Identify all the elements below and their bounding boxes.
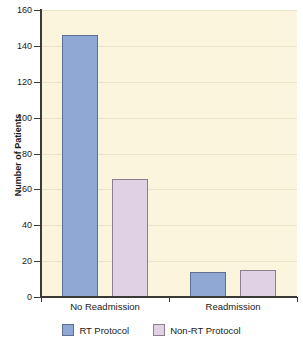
y-tick-label: 40 <box>2 220 32 230</box>
y-tick-label: 20 <box>2 256 32 266</box>
y-tick-label: 60 <box>2 184 32 194</box>
x-axis-separator <box>297 297 298 302</box>
y-tick-mark <box>34 189 40 190</box>
bar-chart: Number of Patients 020406080100120140160… <box>0 0 303 344</box>
y-tick-label: 80 <box>2 149 32 159</box>
chart-legend: RT ProtocolNon-RT Protocol <box>0 324 303 336</box>
legend-label: RT Protocol <box>79 325 129 336</box>
legend-swatch <box>153 324 165 336</box>
x-axis-category-label: Readmission <box>169 301 297 312</box>
y-tick-mark <box>34 82 40 83</box>
y-tick-mark <box>34 46 40 47</box>
y-tick-label: 120 <box>2 77 32 87</box>
bar <box>190 272 226 297</box>
y-tick-mark <box>34 225 40 226</box>
y-tick-mark <box>34 297 40 298</box>
gridline <box>41 10 297 11</box>
legend-item: Non-RT Protocol <box>153 324 240 336</box>
legend-item: RT Protocol <box>62 324 129 336</box>
y-tick-mark <box>34 118 40 119</box>
y-tick-mark <box>34 261 40 262</box>
plot-area <box>41 10 297 297</box>
y-tick-label: 140 <box>2 41 32 51</box>
y-axis-line <box>40 9 42 298</box>
bar <box>112 179 148 297</box>
y-tick-mark <box>34 10 40 11</box>
y-tick-label: 160 <box>2 5 32 15</box>
bar <box>62 35 98 297</box>
y-tick-label: 0 <box>2 292 32 302</box>
bar <box>240 270 276 297</box>
y-tick-label: 100 <box>2 113 32 123</box>
legend-label: Non-RT Protocol <box>170 325 240 336</box>
y-tick-mark <box>34 154 40 155</box>
legend-swatch <box>62 324 74 336</box>
x-axis-category-label: No Readmission <box>41 301 169 312</box>
